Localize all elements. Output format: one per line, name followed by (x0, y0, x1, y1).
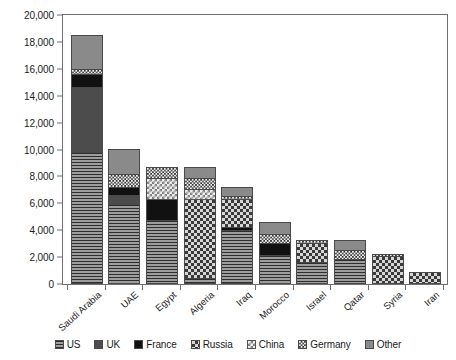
bar-segment-russia[interactable] (222, 200, 252, 228)
y-tick-label: 4,000 (29, 225, 54, 236)
y-axis-ticks: 20,00018,00016,00014,00012,00010,0008,00… (0, 14, 62, 285)
legend-swatch-us-icon (55, 340, 64, 349)
bar-segment-france[interactable] (147, 200, 177, 221)
bar-segment-other[interactable] (109, 150, 139, 175)
bar-segment-other[interactable] (222, 188, 252, 196)
legend-label: US (67, 339, 81, 350)
legend-label: Other (377, 339, 402, 350)
bar-column[interactable] (334, 15, 364, 284)
bar-stack[interactable] (372, 254, 404, 284)
plot-area (63, 15, 447, 284)
bar-segment-germany[interactable] (297, 241, 327, 245)
x-axis-labels: Saudi ArabiaUAEEgyptAlgeriaIraqMoroccoIs… (63, 287, 447, 333)
bar-segment-us[interactable] (185, 279, 215, 283)
legend-label: UK (106, 339, 120, 350)
legend-label: Russia (203, 339, 233, 350)
bar-segment-us[interactable] (260, 256, 290, 283)
bar-stack[interactable] (296, 240, 328, 284)
y-tick-label: 12,000 (24, 117, 54, 128)
y-tick-label: 14,000 (24, 90, 54, 101)
bar-segment-germany[interactable] (109, 175, 139, 188)
legend-item-uk[interactable]: UK (94, 339, 120, 350)
bar-stack[interactable] (146, 167, 178, 284)
bar-segment-us[interactable] (335, 260, 365, 283)
legend-swatch-other-icon (365, 340, 374, 349)
y-tick-label: 8,000 (29, 171, 54, 182)
bar-segment-us[interactable] (72, 153, 102, 283)
bar-column[interactable] (146, 15, 176, 284)
bar-column[interactable] (184, 15, 214, 284)
x-tick-label: Algeria (187, 289, 216, 317)
bar-segment-germany[interactable] (373, 255, 403, 257)
bar-segment-germany[interactable] (222, 197, 252, 200)
bar-segment-russia[interactable] (373, 257, 403, 283)
bar-segment-other[interactable] (185, 168, 215, 179)
bar-segment-other[interactable] (260, 223, 290, 235)
x-tick-label: Saudi Arabia (56, 289, 103, 333)
bar-segment-other[interactable] (335, 241, 365, 251)
legend-label: China (259, 339, 285, 350)
stacked-bar-chart: Million US Dollars 20,00018,00016,00014,… (0, 0, 456, 360)
legend-swatch-france-icon (134, 340, 143, 349)
x-tick-label: Syria (381, 289, 404, 312)
bar-segment-china[interactable] (185, 190, 215, 200)
bar-segment-germany[interactable] (260, 235, 290, 244)
bar-segment-us[interactable] (147, 221, 177, 283)
x-tick-label: Israel (304, 289, 329, 313)
legend-label: Germany (310, 339, 350, 350)
bar-segment-france[interactable] (222, 228, 252, 231)
bar-segment-us[interactable] (109, 205, 139, 283)
x-tick-label: Iran (422, 289, 442, 308)
bar-segment-russia[interactable] (410, 273, 440, 283)
bar-stack[interactable] (221, 187, 253, 284)
bar-segment-other[interactable] (72, 36, 102, 70)
x-tick-label: Iraq (234, 289, 254, 308)
y-tick-label: 10,000 (24, 144, 54, 155)
bar-segment-france[interactable] (260, 244, 290, 256)
legend-swatch-china-icon (247, 340, 256, 349)
legend-item-russia[interactable]: Russia (191, 339, 233, 350)
legend-item-other[interactable]: Other (365, 339, 402, 350)
bar-column[interactable] (409, 15, 439, 284)
bar-segment-us[interactable] (222, 231, 252, 283)
bar-stack[interactable] (71, 35, 103, 284)
bar-segment-russia[interactable] (297, 244, 327, 262)
legend-swatch-uk-icon (94, 340, 103, 349)
bar-segment-germany[interactable] (185, 179, 215, 190)
y-tick-label: 0 (49, 279, 54, 290)
legend-swatch-russia-icon (191, 340, 200, 349)
bar-segment-france[interactable] (72, 75, 102, 88)
bar-segment-germany[interactable] (147, 168, 177, 178)
y-tick-label: 18,000 (24, 36, 54, 47)
bar-segment-us[interactable] (297, 263, 327, 283)
bar-column[interactable] (296, 15, 326, 284)
bar-segment-germany[interactable] (72, 70, 102, 76)
bar-stack[interactable] (409, 272, 441, 284)
legend-item-us[interactable]: US (55, 339, 81, 350)
legend-item-germany[interactable]: Germany (298, 339, 350, 350)
legend-item-france[interactable]: France (134, 339, 177, 350)
y-tick-label: 2,000 (29, 252, 54, 263)
bar-column[interactable] (71, 15, 101, 284)
legend-item-china[interactable]: China (247, 339, 285, 350)
x-tick-label: UAE (119, 289, 141, 310)
bar-stack[interactable] (259, 222, 291, 284)
bar-segment-uk[interactable] (72, 88, 102, 152)
bar-column[interactable] (221, 15, 251, 284)
bar-segment-russia[interactable] (185, 200, 215, 279)
bar-stack[interactable] (108, 149, 140, 284)
y-tick-label: 20,000 (24, 10, 54, 21)
chart-legend: USUKFranceRussiaChinaGermanyOther (0, 334, 456, 354)
x-tick-label: Qatar (341, 289, 366, 313)
bar-segment-germany[interactable] (335, 251, 365, 260)
bar-segment-china[interactable] (147, 179, 177, 200)
bar-column[interactable] (108, 15, 138, 284)
bar-column[interactable] (372, 15, 402, 284)
x-tick-label: Egypt (153, 289, 178, 313)
bar-column[interactable] (259, 15, 289, 284)
bar-stack[interactable] (184, 167, 216, 284)
bar-segment-france[interactable] (109, 188, 139, 196)
bar-segment-uk[interactable] (109, 196, 139, 205)
bar-stack[interactable] (334, 240, 366, 284)
y-tick-label: 16,000 (24, 63, 54, 74)
